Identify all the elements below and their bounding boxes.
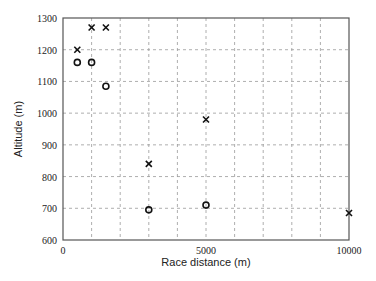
y-tick-label: 600	[42, 235, 57, 246]
y-tick-label: 900	[42, 140, 57, 151]
cross-marker	[103, 25, 109, 31]
y-tick-label: 1100	[37, 76, 57, 87]
circle-marker	[103, 83, 109, 89]
y-axis-label: Altitude (m)	[12, 101, 24, 157]
y-tick-label: 700	[42, 203, 57, 214]
y-tick-label: 1200	[37, 45, 57, 56]
circle-marker	[74, 59, 80, 65]
scatter-chart: 6007008009001000110012001300 0500010000 …	[0, 0, 376, 281]
x-axis-ticks: 0500010000	[61, 245, 362, 256]
y-tick-label: 1300	[37, 13, 57, 24]
grid-lines	[63, 18, 349, 240]
y-tick-label: 800	[42, 172, 57, 183]
x-axis-label: Race distance (m)	[161, 256, 250, 268]
y-axis-ticks: 6007008009001000110012001300	[37, 13, 57, 246]
x-tick-label: 5000	[196, 245, 216, 256]
data-points	[74, 25, 352, 217]
cross-marker	[146, 161, 152, 167]
y-tick-label: 1000	[37, 108, 57, 119]
x-tick-label: 10000	[337, 245, 362, 256]
x-tick-label: 0	[61, 245, 66, 256]
